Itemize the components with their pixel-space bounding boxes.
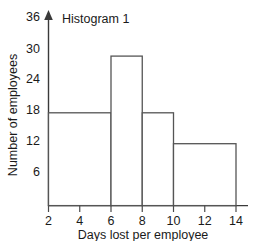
y-tick-label-24: 24 <box>26 72 40 86</box>
y-tick-label-18: 18 <box>26 103 40 117</box>
x-axis-title: Days lost per employee <box>78 228 209 241</box>
y-tick-label-36: 36 <box>26 10 40 24</box>
x-tick-label-14: 14 <box>229 214 243 228</box>
y-tick-label-6: 6 <box>33 165 40 179</box>
x-tick-label-2: 2 <box>45 214 52 228</box>
y-axis-title: Number of employees <box>6 54 20 176</box>
histogram-bar-8-10 <box>142 113 173 206</box>
chart-title: Histogram 1 <box>62 12 129 26</box>
x-tick-label-10: 10 <box>167 214 181 228</box>
x-tick-label-4: 4 <box>76 214 83 228</box>
histogram-bar-10-14 <box>174 144 237 206</box>
histogram-canvas: Histogram 1 36 30 24 18 12 6 2 4 6 8 10 … <box>0 0 255 241</box>
histogram-figure: Histogram 1 36 30 24 18 12 6 2 4 6 8 10 … <box>0 0 255 241</box>
histogram-bar-2-6 <box>49 113 112 206</box>
x-tick-label-12: 12 <box>198 214 212 228</box>
x-tick-label-8: 8 <box>139 214 146 228</box>
y-tick-label-30: 30 <box>26 42 40 56</box>
y-tick-label-12: 12 <box>26 134 40 148</box>
histogram-bar-6-8 <box>111 56 142 206</box>
x-tick-label-6: 6 <box>108 214 115 228</box>
